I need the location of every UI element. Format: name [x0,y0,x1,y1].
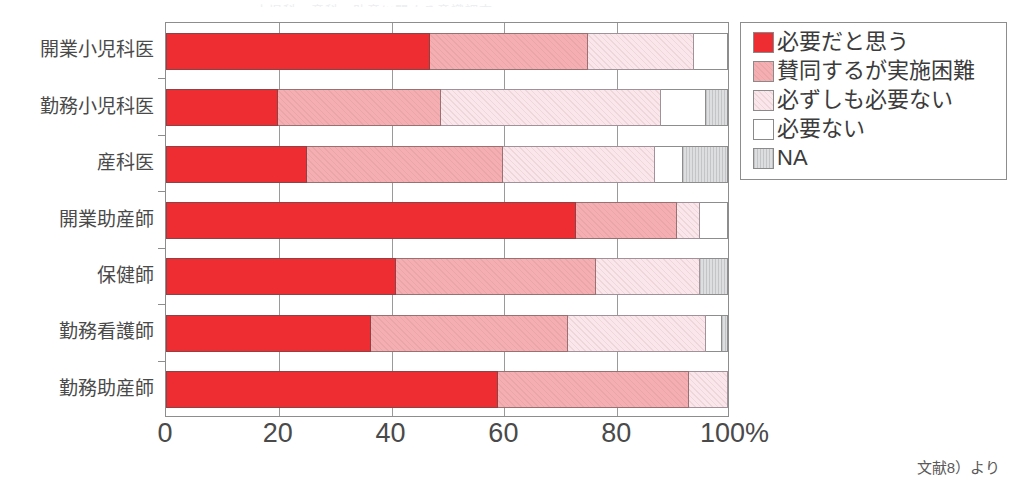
bar-segment [166,315,371,352]
legend-item-3: 必要ない [753,118,996,140]
y-axis-label-text: 開業小児科医 [40,39,159,60]
bar-segment [568,315,706,352]
x-tick-label-100: 100% [700,420,769,447]
y-axis-tick [158,304,165,305]
x-tick-label-0: 0 [157,420,172,447]
bar-segment [677,202,699,239]
bar-segment [588,33,695,70]
bar-segment [307,146,504,183]
chart-title-trace: 小児科・産科・助産に関する意識調査 [255,0,735,7]
bar-segment [576,202,677,239]
legend-label-3: 必要ない [777,118,865,140]
x-tick-label-60: 60 [488,420,518,447]
bar-row [166,315,728,352]
bar-segment [661,89,706,126]
bar-segment [166,146,307,183]
y-axis-label-0: 開業小児科医 [0,40,159,59]
bar-segment [700,258,728,295]
bar-row [166,258,728,295]
y-axis-label-5: 勤務看護師 [0,322,159,341]
bar-row [166,371,728,408]
y-axis-tick [158,361,165,362]
y-axis-category-labels: 開業小児科医勤務小児科医産科医開業助産師保健師勤務看護師勤務助産師 [0,22,159,417]
bar-segment [706,315,723,352]
legend-label-2: 必ずしも必要ない [777,89,953,111]
bar-segment [596,258,700,295]
bar-row [166,33,728,70]
bar-segment [498,371,689,408]
legend-swatch-lightpink [753,90,774,111]
legend-item-2: 必ずしも必要ない [753,89,996,111]
y-axis-tick [158,248,165,249]
bar-segment [166,371,498,408]
y-axis-label-text: 開業助産師 [59,209,159,230]
legend-label-1: 賛同するが実施困難 [777,60,975,82]
bar-segment [694,33,728,70]
legend-item-0: 必要だと思う [753,31,996,53]
bar-segment [706,89,728,126]
bar-segment [166,89,278,126]
bar-segment [683,146,728,183]
bar-row [166,202,728,239]
y-axis-label-1: 勤務小児科医 [0,97,159,116]
bar-segment [503,146,655,183]
y-axis-label-text: 保健師 [97,265,159,286]
y-axis-label-text: 勤務助産師 [59,378,159,399]
legend-label-4: NA [777,147,808,169]
y-axis-tick [158,135,165,136]
plot-area [165,22,729,417]
x-axis-tick-labels: 020406080100% [0,420,1018,460]
legend-item-1: 賛同するが実施困難 [753,60,996,82]
bar-segment [700,202,728,239]
y-axis-label-6: 勤務助産師 [0,379,159,398]
legend-swatch-pink [753,61,774,82]
y-axis-tick [158,78,165,79]
y-axis-label-2: 産科医 [0,153,159,172]
bar-segment [689,371,728,408]
bar-segment [371,315,568,352]
chart-figure: 小児科・産科・助産に関する意識調査 開業小児科医勤務小児科医産科医開業助産師保健… [0,0,1018,487]
x-tick-label-20: 20 [263,420,293,447]
y-axis-label-text: 勤務小児科医 [40,96,159,117]
bar-segment [166,202,576,239]
bar-segment [722,315,728,352]
bar-segment [441,89,660,126]
bar-row [166,89,728,126]
y-axis-tick [158,191,165,192]
chart-legend: 必要だと思う賛同するが実施困難必ずしも必要ない必要ないNA [740,22,1007,180]
bar-segment [166,33,430,70]
bar-segment [655,146,683,183]
legend-label-0: 必要だと思う [777,31,909,53]
legend-item-4: NA [753,147,996,169]
bar-segment [278,89,441,126]
bar-segment [166,258,396,295]
bar-segment [396,258,596,295]
legend-swatch-gray [753,148,774,169]
legend-swatch-red [753,32,774,53]
y-axis-label-text: 産科医 [97,152,159,173]
x-tick-label-80: 80 [601,420,631,447]
bar-row [166,146,728,183]
bar-segment [430,33,587,70]
y-axis-label-text: 勤務看護師 [59,321,159,342]
y-axis-label-4: 保健師 [0,266,159,285]
source-note: 文献8）より [917,456,1000,477]
x-tick-label-40: 40 [376,420,406,447]
y-axis-label-3: 開業助産師 [0,210,159,229]
legend-swatch-white [753,119,774,140]
